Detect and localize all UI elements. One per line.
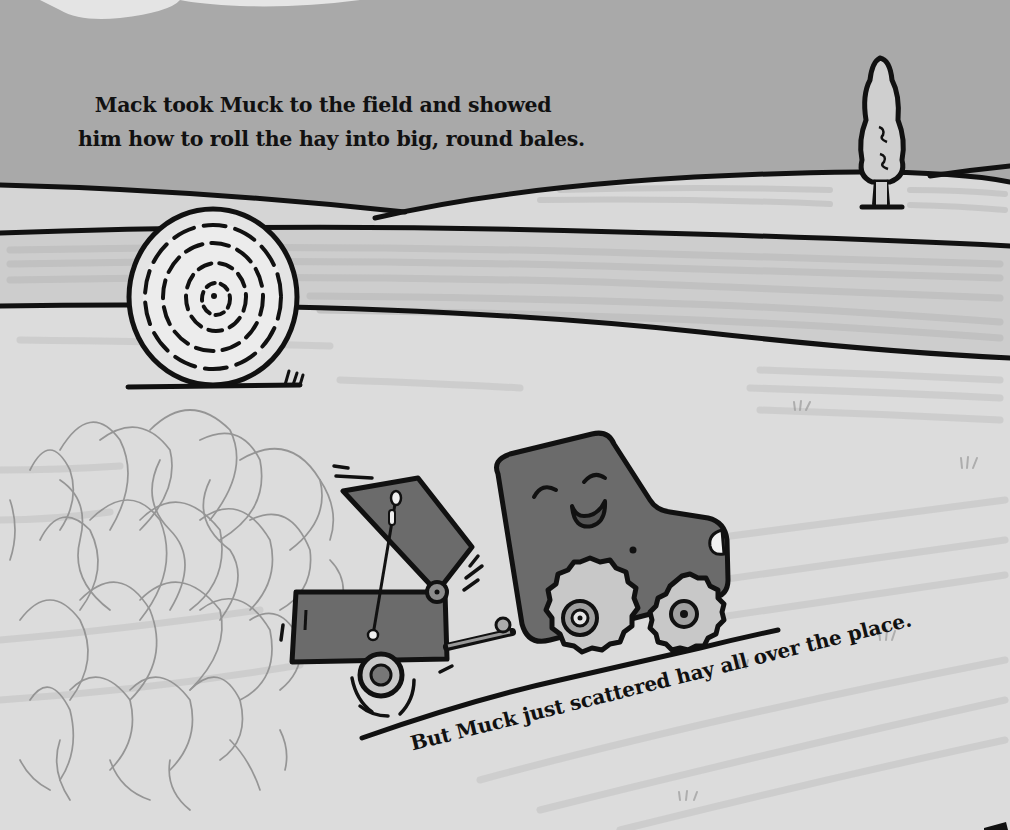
tractor-big-wheel [546,558,638,652]
story-line-1: Mack took Muck to the field and showed [78,88,568,122]
story-text-top: Mack took Muck to the field and showed h… [78,88,568,156]
book-page: Mack took Muck to the field and showed h… [0,0,1010,830]
story-line-2: him how to roll the hay into big, round … [78,122,568,156]
